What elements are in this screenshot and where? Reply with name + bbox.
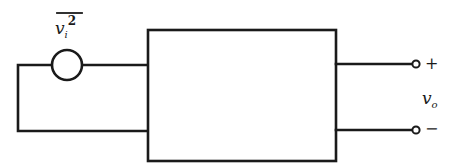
two-port-network-box bbox=[148, 30, 336, 161]
plus-terminal-label: + bbox=[425, 54, 438, 73]
terminal-plus-icon bbox=[412, 60, 419, 67]
minus-terminal-label: − bbox=[425, 119, 438, 138]
output-voltage-label: vo bbox=[422, 88, 438, 110]
source-label: vi2 bbox=[55, 16, 76, 40]
noise-source-icon bbox=[52, 50, 82, 80]
input-loop-wire bbox=[18, 65, 148, 131]
terminal-minus-icon bbox=[412, 126, 419, 133]
